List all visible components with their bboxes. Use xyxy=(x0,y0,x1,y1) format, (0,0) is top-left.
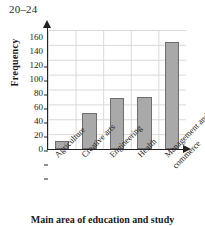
y-axis-tick-mark xyxy=(44,137,48,138)
x-axis-arrow-icon xyxy=(183,145,191,153)
x-axis-title: Main area of education and study xyxy=(0,214,205,225)
y-axis-tick-mark xyxy=(44,123,48,124)
chart-title: 20–24 xyxy=(9,3,38,15)
y-axis-tick-mark xyxy=(44,165,48,166)
bar xyxy=(165,42,179,149)
bar xyxy=(110,98,124,149)
y-axis-tick-marks xyxy=(0,30,60,149)
y-axis-tick-mark xyxy=(44,179,48,180)
y-axis-tick-mark xyxy=(44,109,48,110)
plot-area xyxy=(48,30,186,149)
x-axis-line xyxy=(47,149,184,150)
y-axis-tick-mark xyxy=(44,151,48,152)
bar xyxy=(82,113,96,149)
y-axis-tick-mark xyxy=(44,67,48,68)
bar xyxy=(137,97,151,150)
y-axis-tick-mark xyxy=(44,81,48,82)
y-axis-tick-mark xyxy=(44,95,48,96)
y-axis-arrow-icon xyxy=(43,20,51,28)
